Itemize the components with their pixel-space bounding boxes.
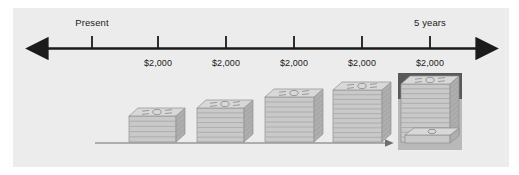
money-stack-3 [264,87,326,148]
timeline-label-5-years: 5 years [414,17,446,28]
timeline-label-present: Present [75,17,108,28]
money-stack-2 [196,98,256,148]
payment-label-3: $2,000 [280,58,308,68]
money-stack-1 [128,106,188,148]
payment-label-5: $2,000 [416,58,444,68]
money-stack-4 [332,80,394,148]
payment-label-2: $2,000 [212,58,240,68]
money-stack-5-front-bundle [404,126,460,146]
timeline-ticks [92,36,430,48]
payment-label-4: $2,000 [348,58,376,68]
payment-label-1: $2,000 [144,58,172,68]
figure-timeline-investment: Present 5 years $2,000 $2,000 $2,000 $2,… [0,0,519,175]
